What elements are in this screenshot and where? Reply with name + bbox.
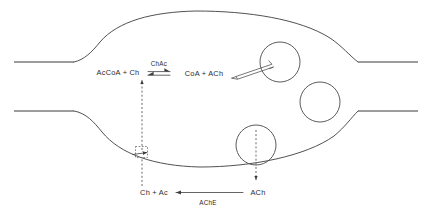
diagram-svg: AcCoA + Ch ChAc CoA + ACh Ch + Ac AChE A… <box>0 0 431 218</box>
transporter-inward-arrow <box>133 153 147 155</box>
vesicle-upper-right <box>300 82 340 122</box>
label-released-acetylcholine: ACh <box>250 188 265 197</box>
equilibrium-arrow-group <box>148 72 170 76</box>
vesicle-loading-arrow-head-left <box>232 77 238 80</box>
vesicle-loading-arrow <box>232 61 274 80</box>
axon-membrane-right <box>358 62 418 111</box>
choline-reuptake-transporter <box>136 147 148 158</box>
vesicle-upper-left <box>260 42 300 82</box>
label-substrate-left: AcCoA + Ch <box>97 68 140 77</box>
label-product-right: CoA + ACh <box>185 69 224 78</box>
presynaptic-terminal-outline <box>74 11 358 167</box>
label-enzyme-acetylcholinesterase: AChE <box>199 199 216 206</box>
terminal-outline-lower <box>74 111 358 167</box>
synapse-diagram-canvas: AcCoA + Ch ChAc CoA + ACh Ch + Ac AChE A… <box>0 0 431 218</box>
terminal-outline-upper <box>74 11 358 62</box>
label-enzyme-choline-acetyltransferase: ChAc <box>151 60 167 67</box>
label-hydrolysis-products: Ch + Ac <box>140 188 168 197</box>
choline-reuptake-arrow <box>133 80 148 186</box>
synaptic-vesicles <box>236 42 340 165</box>
axon-membrane-left <box>14 62 74 111</box>
vesicle-loading-arrow-shaft <box>236 64 274 79</box>
